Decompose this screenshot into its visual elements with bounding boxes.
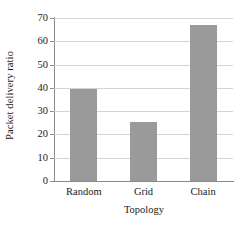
x-axis-tick-labels: RandomGridChain [54, 185, 234, 201]
y-axis-tick [50, 134, 54, 135]
bar [130, 122, 157, 181]
y-axis-title: Packet delivery ratio [3, 5, 17, 186]
y-axis-tick-label: 10 [16, 152, 48, 163]
plot-area [54, 18, 233, 181]
y-axis-tick-label: 70 [16, 12, 48, 23]
y-axis-tick-label: 60 [16, 35, 48, 46]
bar-chart-figure: Packet delivery ratio 010203040506070 Ra… [0, 0, 241, 234]
gridline [54, 181, 233, 182]
y-axis-tick [50, 88, 54, 89]
gridline [54, 18, 233, 19]
bar [190, 25, 217, 181]
y-axis-tick-label: 50 [16, 59, 48, 70]
y-axis-tick-labels: 010203040506070 [16, 0, 48, 234]
y-axis-tick-label: 30 [16, 105, 48, 116]
y-axis-tick [50, 65, 54, 66]
y-axis-tick [50, 18, 54, 19]
x-axis-title: Topology [54, 203, 234, 217]
y-axis-tick [50, 158, 54, 159]
x-axis-tick-label: Chain [191, 185, 216, 199]
y-axis-tick [50, 181, 54, 182]
y-axis-tick [50, 111, 54, 112]
bar [70, 89, 97, 181]
x-axis-tick-label: Random [66, 185, 102, 199]
x-axis-tick-label: Grid [134, 185, 153, 199]
y-axis-tick-label: 20 [16, 128, 48, 139]
y-axis-tick-label: 40 [16, 82, 48, 93]
y-axis-tick-label: 0 [16, 175, 48, 186]
y-axis-tick [50, 41, 54, 42]
